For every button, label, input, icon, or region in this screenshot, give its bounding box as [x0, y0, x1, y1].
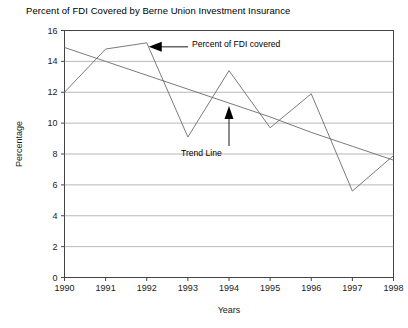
x-tick-label: 1998: [374, 283, 408, 293]
y-tick-label: 2: [32, 242, 58, 252]
x-tick-label: 1992: [127, 283, 167, 293]
y-tick-label: 10: [32, 118, 58, 128]
x-tick-label: 1995: [250, 283, 290, 293]
y-tick-marks: [61, 31, 65, 278]
annotation-fdi-label: Percent of FDI covered: [192, 39, 280, 49]
gridlines: [65, 61, 394, 246]
y-tick-label: 0: [32, 273, 58, 283]
x-tick-label: 1993: [168, 283, 208, 293]
y-tick-label: 16: [32, 26, 58, 36]
x-tick-label: 1996: [291, 283, 331, 293]
x-tick-label: 1990: [45, 283, 85, 293]
y-tick-label: 8: [32, 149, 58, 159]
annotation-trend-label: Trend Line: [181, 148, 222, 158]
x-tick-label: 1991: [86, 283, 126, 293]
annotation-leaders: [149, 42, 234, 146]
y-tick-label: 14: [32, 56, 58, 66]
y-tick-label: 12: [32, 87, 58, 97]
y-tick-label: 4: [32, 211, 58, 221]
x-tick-marks: [65, 278, 394, 282]
y-tick-label: 6: [32, 180, 58, 190]
x-tick-label: 1997: [332, 283, 372, 293]
x-axis-label: Years: [64, 305, 394, 315]
x-tick-label: 1994: [209, 283, 249, 293]
